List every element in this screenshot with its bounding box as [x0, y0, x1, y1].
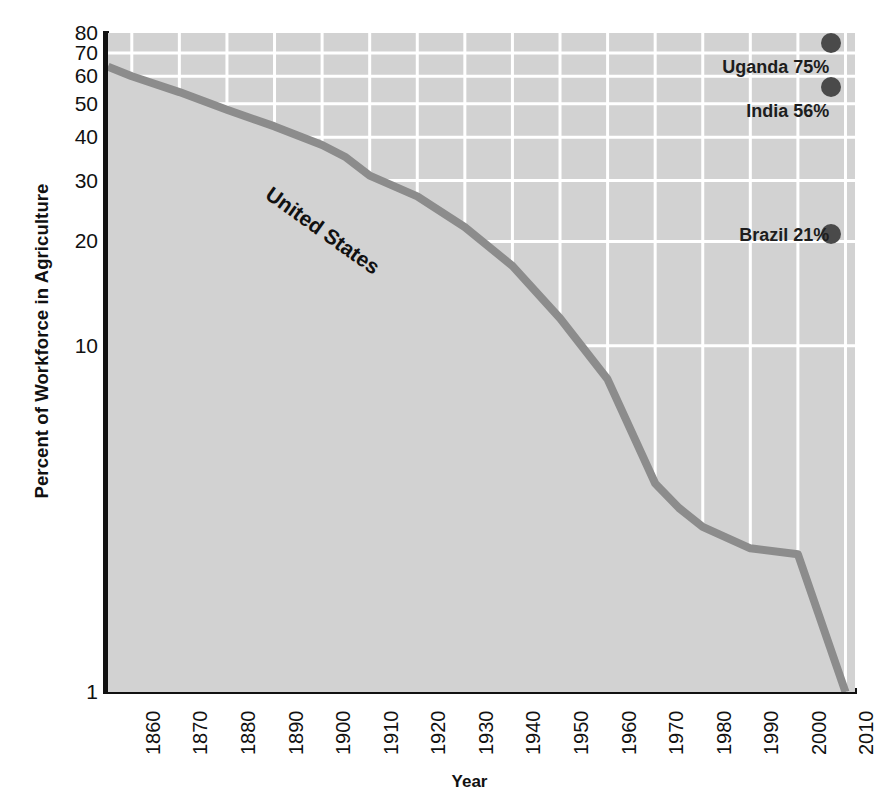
x-tick-label: 1970 — [665, 711, 688, 756]
x-tick-label: 1950 — [570, 711, 593, 756]
x-tick-label: 2010 — [855, 711, 878, 756]
x-axis-title: Year — [0, 772, 885, 792]
x-tick-label: 1930 — [475, 711, 498, 756]
x-tick-label: 1920 — [427, 711, 450, 756]
x-tick-label: 1990 — [760, 711, 783, 756]
x-tick-label: 1870 — [189, 711, 212, 756]
x-tick-label: 1960 — [618, 711, 641, 756]
x-tick-label: 1910 — [380, 711, 403, 756]
x-axis-tick-labels: 1860187018801890190019101920193019401950… — [0, 0, 885, 806]
x-tick-label: 1940 — [522, 711, 545, 756]
x-tick-label: 1880 — [237, 711, 260, 756]
x-tick-label: 1890 — [285, 711, 308, 756]
x-tick-label: 1980 — [713, 711, 736, 756]
x-tick-label: 2000 — [808, 711, 831, 756]
chart-figure: Percent of Workforce in Agriculture 1102… — [0, 0, 885, 806]
x-tick-label: 1900 — [332, 711, 355, 756]
x-axis-title-text: Year — [452, 772, 488, 791]
x-tick-label: 1860 — [142, 711, 165, 756]
